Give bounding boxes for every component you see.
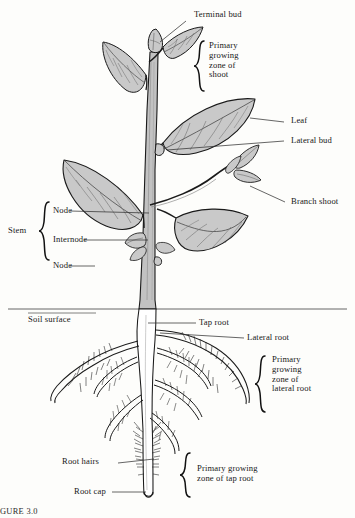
brace-shoot bbox=[194, 41, 204, 91]
label-primary-growing-zone-lateral-root: Primary growing zone of lateral root bbox=[272, 355, 311, 394]
label-terminal-bud: Terminal bud bbox=[194, 10, 242, 20]
label-node-upper: Node bbox=[53, 206, 72, 216]
label-soil-surface: Soil surface bbox=[28, 315, 71, 325]
lateral-root-center bbox=[150, 411, 179, 454]
label-lateral-root: Lateral root bbox=[247, 333, 289, 343]
label-root-cap: Root cap bbox=[74, 487, 106, 497]
label-stem: Stem bbox=[8, 226, 26, 236]
leader-branch-shoot bbox=[250, 186, 285, 202]
lateral-root-left-1 bbox=[51, 341, 139, 403]
leaf-right-mid bbox=[175, 209, 248, 251]
lateral-bud bbox=[155, 144, 164, 156]
label-primary-growing-zone-tap-root: Primary growing zone of tap root bbox=[197, 464, 258, 484]
label-leaf: Leaf bbox=[291, 116, 307, 126]
brace-stem bbox=[39, 202, 49, 260]
brace-tap-root bbox=[180, 453, 190, 497]
label-internode: Internode bbox=[53, 235, 87, 245]
label-root-hairs: Root hairs bbox=[62, 457, 99, 467]
label-lateral-bud: Lateral bud bbox=[291, 136, 332, 146]
leaflet-axil-right bbox=[156, 242, 175, 253]
leader-leaf bbox=[250, 118, 284, 122]
branch-shoot-stem bbox=[150, 163, 234, 205]
figure-caption: GURE 3.0 bbox=[0, 507, 38, 516]
leaflet-axil-left bbox=[125, 233, 146, 248]
brace-lateral-root bbox=[255, 356, 265, 412]
label-branch-shoot: Branch shoot bbox=[291, 197, 338, 207]
terminal-bud bbox=[148, 29, 162, 53]
plant-anatomy-figure: Terminal bud Primary growing zone of sho… bbox=[0, 0, 355, 518]
label-node-lower: Node bbox=[53, 261, 72, 271]
label-primary-growing-zone-shoot: Primary growing zone of shoot bbox=[209, 41, 239, 80]
lateral-root-left-2 bbox=[94, 357, 138, 397]
label-tap-root: Tap root bbox=[199, 318, 229, 328]
lateral-bud-lower bbox=[154, 257, 162, 266]
lateral-root-right-3 bbox=[154, 378, 202, 420]
plant-illustration bbox=[0, 0, 355, 518]
lateral-root-right-1 bbox=[156, 330, 249, 404]
